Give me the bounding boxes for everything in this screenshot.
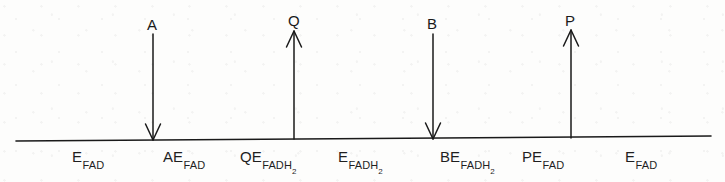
state-label-3: QEFADH2 bbox=[240, 149, 296, 171]
state-cofactor-subscript-count: 2 bbox=[378, 167, 383, 176]
state-cofactor-subscript: FAD bbox=[184, 159, 206, 171]
state-cofactor-subscript-count: 2 bbox=[292, 167, 297, 176]
arrow-label-p: P bbox=[565, 12, 575, 29]
state-label-4: EFADH2 bbox=[338, 149, 382, 171]
state-species: QE bbox=[240, 148, 262, 165]
arrow-group bbox=[146, 30, 579, 140]
reaction-progress-line bbox=[16, 136, 711, 141]
state-label-5: BEFADH2 bbox=[440, 149, 494, 171]
arrow-a bbox=[146, 34, 161, 140]
state-species: E bbox=[625, 148, 635, 165]
state-cofactor-subscript: FADH2 bbox=[262, 159, 296, 171]
state-cofactor-subscript: FAD bbox=[83, 159, 105, 171]
arrow-b bbox=[426, 34, 441, 139]
state-species: PE bbox=[522, 148, 542, 165]
state-label-7: EFAD bbox=[625, 149, 657, 168]
state-label-1: EFAD bbox=[72, 149, 104, 168]
state-label-6: PEFAD bbox=[522, 149, 564, 168]
state-label-2: AEFAD bbox=[163, 149, 205, 168]
state-cofactor-subscript: FAD bbox=[636, 159, 658, 171]
arrow-label-a: A bbox=[147, 16, 157, 33]
arrow-q bbox=[287, 31, 302, 139]
arrow-p bbox=[564, 30, 579, 138]
state-species: E bbox=[72, 148, 82, 165]
state-cofactor-subscript: FADH2 bbox=[461, 159, 495, 171]
state-cofactor-subscript: FAD bbox=[543, 159, 565, 171]
state-species: E bbox=[338, 148, 348, 165]
state-cofactor-subscript-count: 2 bbox=[490, 167, 495, 176]
state-cofactor-subscript: FADH2 bbox=[349, 159, 383, 171]
state-species: BE bbox=[440, 148, 460, 165]
arrow-label-b: B bbox=[427, 15, 437, 32]
arrow-label-q: Q bbox=[288, 12, 300, 29]
reaction-progress-line bbox=[16, 136, 711, 141]
cleland-diagram-canvas: AQBP EFADAEFADQEFADH2EFADH2BEFADH2PEFADE… bbox=[0, 0, 725, 182]
state-species: AE bbox=[163, 148, 183, 165]
